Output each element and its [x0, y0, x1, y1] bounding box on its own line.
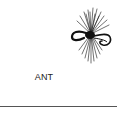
fly-pattern-label: ANT	[24, 72, 64, 82]
ant-fly-lure-icon	[68, 6, 114, 64]
divider-line	[0, 106, 117, 107]
